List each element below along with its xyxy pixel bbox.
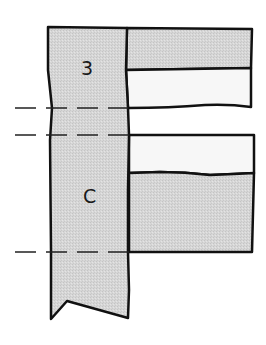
label-upper-region: 3 xyxy=(81,57,93,79)
label-lower-region: C xyxy=(83,185,96,207)
top-right-white-band xyxy=(126,68,251,108)
bottom-right-gray-band xyxy=(129,172,254,252)
top-right-gray-band xyxy=(126,28,252,70)
diagram-canvas: 3 C xyxy=(0,0,266,345)
bottom-right-white-band xyxy=(129,135,254,175)
